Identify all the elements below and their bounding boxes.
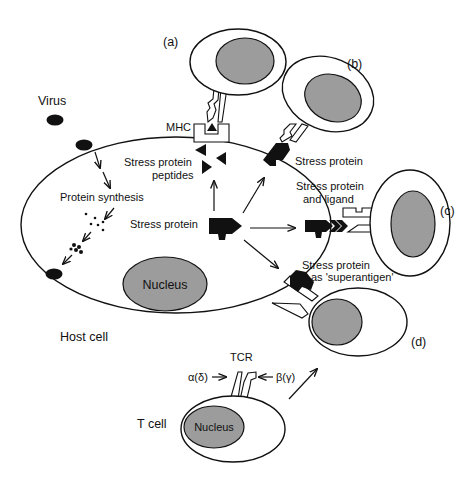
alpha-delta-label: α(δ): [188, 371, 208, 383]
stress-protein-ligand-label-2: and ligand: [303, 193, 354, 205]
receptor-c-top: [343, 208, 374, 217]
mhc-bound-peptide-icon: [207, 123, 217, 131]
stress-protein-center-label: Stress protein: [130, 218, 198, 230]
tcr-alpha-chain: [207, 88, 219, 122]
tcr-label: TCR: [230, 351, 253, 363]
stress-protein-ligand-label-1: Stress protein: [296, 180, 364, 192]
resting-t-cell: Nucleus: [181, 372, 285, 462]
cell-a-nucleus: [216, 38, 274, 84]
panel-d-label: (d): [411, 335, 426, 349]
superantigen-label-1: Stress protein: [302, 259, 370, 271]
t-cell-label: T cell: [137, 417, 167, 431]
tcr-alpha-chain: [231, 372, 242, 399]
virus-label: Virus: [38, 94, 66, 108]
virus-entering-icon: [76, 140, 93, 151]
beta-gamma-label: β(γ): [276, 371, 295, 383]
virus-particle-icon: [47, 115, 64, 126]
stress-protein-peptides-label-2: peptides: [152, 169, 194, 181]
mhc-label: MHC: [166, 121, 191, 133]
cell-c-nucleus: [391, 191, 435, 257]
stress-protein-diagram: Nucleus Host cell Virus Protein synthesi…: [0, 0, 476, 484]
receptor-d-lower: [272, 303, 308, 318]
virus-released-icon: [46, 269, 63, 280]
superantigen-label-2: as 'superantigen': [311, 271, 393, 283]
panel-a-label: (a): [163, 35, 178, 49]
t-cell-a: [190, 29, 286, 122]
host-cell-label: Host cell: [60, 330, 108, 344]
panel-b-label: (b): [347, 57, 362, 71]
host-nucleus-label: Nucleus: [142, 278, 187, 292]
t-cell-nucleus-label: Nucleus: [194, 421, 234, 433]
stress-protein-peptides-label-1: Stress protein: [124, 156, 192, 168]
protein-synthesis-label: Protein synthesis: [60, 191, 144, 203]
stress-protein-b-label: Stress protein: [295, 155, 363, 167]
panel-c-label: (c): [440, 204, 455, 218]
cell-d-nucleus: [312, 299, 362, 345]
